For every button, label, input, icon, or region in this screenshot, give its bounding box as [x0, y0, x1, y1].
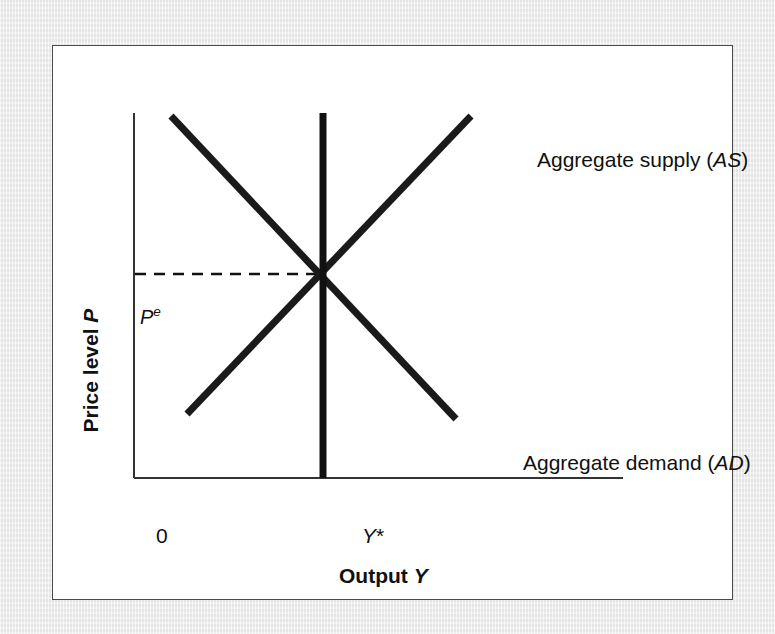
superscript-e: e — [153, 304, 161, 319]
aggregate-supply-abbrev: AS — [713, 148, 741, 171]
aggregate-supply-label: Aggregate supply (AS) — [537, 149, 748, 170]
asterisk-icon: * — [376, 524, 384, 547]
equilibrium-output-tick-label: Y* — [362, 525, 384, 546]
figure-frame: Aggregate supply (AS) Aggregate demand (… — [52, 45, 733, 600]
aggregate-demand-curve — [171, 116, 456, 419]
x-axis-title: Output Y — [339, 565, 428, 586]
aggregate-demand-abbrev: AD — [714, 451, 743, 474]
y-axis-variable: P — [79, 309, 102, 323]
equilibrium-price-tick-label: Pe — [140, 307, 161, 327]
aggregate-supply-curve — [187, 116, 471, 414]
x-axis-variable: Y — [414, 564, 428, 587]
origin-label: 0 — [156, 525, 168, 546]
aggregate-demand-label: Aggregate demand (AD) — [523, 452, 751, 473]
y-axis-title: Price level P — [80, 291, 101, 451]
